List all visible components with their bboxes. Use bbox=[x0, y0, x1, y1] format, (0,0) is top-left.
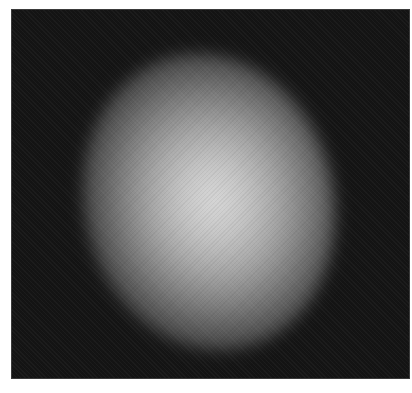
image-frame bbox=[11, 9, 410, 379]
bright-elliptical-blob bbox=[51, 26, 366, 378]
